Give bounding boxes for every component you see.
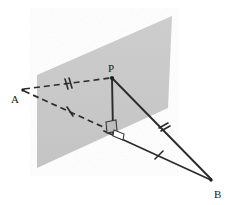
vertex-label-B: B — [214, 188, 221, 200]
shaded-plane — [37, 16, 172, 168]
vertex-dot-B — [209, 178, 212, 181]
right-angle-to-FB-icon — [113, 130, 124, 140]
vertex-dot-P — [110, 76, 114, 80]
geometry-figure: A P B — [0, 0, 235, 205]
vertex-label-A: A — [11, 93, 19, 105]
vertex-dot-A — [21, 88, 24, 91]
plane-group — [37, 16, 172, 168]
tick-PB — [159, 123, 170, 131]
vertex-label-P: P — [108, 62, 114, 74]
geometry-canvas: A P B — [0, 0, 235, 205]
